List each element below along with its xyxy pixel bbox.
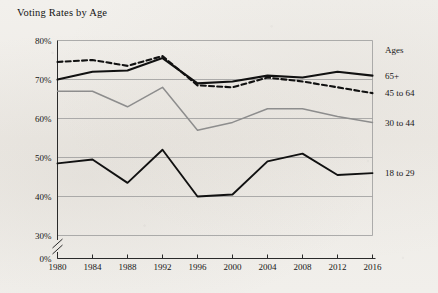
x-tick-label: 2008 [294,262,313,272]
series-line-18-to-29 [58,150,373,197]
y-tick-label: 40% [35,192,52,202]
legend-label-30-to-44: 30 to 44 [385,118,415,128]
x-tick-label: 2004 [259,262,278,272]
x-tick-label: 1984 [84,262,103,272]
series-line-30-to-44 [58,87,373,130]
x-tick-labels-group: 1980198419881992199620002004200820122016 [49,262,383,272]
y-tick-label: 70% [35,75,52,85]
x-tick-label: 1980 [49,262,68,272]
data-series-group [58,56,373,196]
x-tick-label: 1992 [154,262,172,272]
x-tick-label: 2016 [364,262,383,272]
legend-label-45-to-64: 45 to 64 [385,88,415,98]
x-tick-label: 2012 [329,262,347,272]
chart-plot-svg: 80%70%60%50%40%30%0% 1980198419881992199… [0,0,438,293]
y-tick-label: 80% [35,36,52,46]
y-tick-label: 60% [35,114,52,124]
x-tick-label: 2000 [224,262,243,272]
x-tick-label: 1988 [119,262,138,272]
voting-rates-line-chart: Voting Rates by Age 80%70%60%50%40%30%0%… [0,0,438,293]
legend-title: Ages [385,45,404,55]
gridlines-group [58,41,373,236]
x-tick-marks-group [58,255,373,259]
y-tick-label: 50% [35,153,52,163]
legend-label-18-to-29: 18 to 29 [385,168,415,178]
legend-group: Ages65+45 to 6430 to 4418 to 29 [385,45,415,178]
y-tick-label: 30% [35,231,52,241]
legend-label-65-: 65+ [385,71,399,81]
axis-break-marker [53,239,63,254]
x-tick-label: 1996 [189,262,208,272]
y-tick-labels-group: 80%70%60%50%40%30%0% [35,36,52,264]
